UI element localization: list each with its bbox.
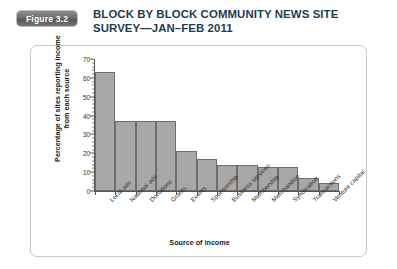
y-axis-minor-tick: [92, 183, 94, 184]
y-axis-minor-tick: [92, 130, 94, 131]
y-axis-minor-tick: [92, 164, 94, 165]
y-axis-minor-tick: [92, 89, 94, 90]
y-axis-minor-tick: [92, 111, 94, 112]
y-axis-minor-tick: [92, 145, 94, 146]
y-axis-minor-tick: [92, 119, 94, 120]
y-axis-tick-mark: [90, 153, 94, 154]
x-axis-tick-mark: [217, 191, 218, 195]
y-axis-minor-tick: [92, 66, 94, 67]
x-axis-tick-mark: [339, 191, 340, 195]
figure-number-badge: Figure 3.2: [17, 11, 77, 26]
y-axis-minor-tick: [92, 81, 94, 82]
y-axis-minor-tick: [92, 62, 94, 63]
x-axis-category-label: Events: [189, 184, 208, 203]
figure-title-line-2: SURVEY—JAN–FEB 2011: [93, 22, 388, 36]
y-axis-minor-tick: [92, 149, 94, 150]
x-axis-tick-mark: [136, 191, 137, 195]
y-axis-minor-tick: [92, 126, 94, 127]
y-axis-minor-tick: [92, 108, 94, 109]
y-axis-minor-tick: [92, 141, 94, 142]
x-axis-tick-mark: [95, 191, 96, 195]
y-axis-minor-tick: [92, 74, 94, 75]
figure-title-line-1: BLOCK BY BLOCK COMMUNITY NEWS SITE: [93, 8, 388, 22]
x-axis-category-label: Grants: [169, 184, 188, 203]
x-axis-tick-mark: [176, 191, 177, 195]
y-axis-tick-mark: [90, 59, 94, 60]
y-axis-minor-tick: [92, 104, 94, 105]
y-axis-minor-tick: [92, 179, 94, 180]
x-axis-tick-mark: [278, 191, 279, 195]
x-axis-tick-mark: [319, 191, 320, 195]
y-axis-tick-mark: [90, 77, 94, 78]
y-axis-minor-tick: [92, 187, 94, 188]
y-axis-minor-tick: [92, 175, 94, 176]
y-axis-tick-mark: [90, 172, 94, 173]
x-axis-tick-mark: [156, 191, 157, 195]
y-axis-minor-tick: [92, 85, 94, 86]
y-axis-minor-tick: [92, 92, 94, 93]
y-axis-minor-tick: [92, 168, 94, 169]
x-axis-tick-mark: [197, 191, 198, 195]
x-axis-tick-mark: [258, 191, 259, 195]
y-axis-tick-mark: [90, 115, 94, 116]
y-axis-minor-tick: [92, 123, 94, 124]
y-axis-tick-mark: [90, 134, 94, 135]
y-axis-minor-tick: [92, 138, 94, 139]
y-axis-tick-mark: [90, 96, 94, 97]
x-axis-title: Source of income: [31, 238, 368, 247]
y-axis-minor-tick: [92, 70, 94, 71]
chart-panel: Percentage of sites reporting income fro…: [30, 45, 367, 257]
y-axis-minor-tick: [92, 160, 94, 161]
x-axis-category-labels: Local adsNational adsDonationsGrantsEven…: [31, 46, 368, 258]
y-axis-minor-tick: [92, 100, 94, 101]
y-axis-minor-tick: [92, 157, 94, 158]
plot-area: Percentage of sites reporting income fro…: [31, 46, 368, 258]
x-axis-tick-mark: [237, 191, 238, 195]
x-axis-category-label: Local ads: [108, 179, 132, 203]
x-axis-tick-mark: [298, 191, 299, 195]
y-axis-tick-mark: [90, 191, 94, 192]
x-axis-tick-mark: [115, 191, 116, 195]
figure-title: BLOCK BY BLOCK COMMUNITY NEWS SITE SURVE…: [93, 8, 388, 35]
